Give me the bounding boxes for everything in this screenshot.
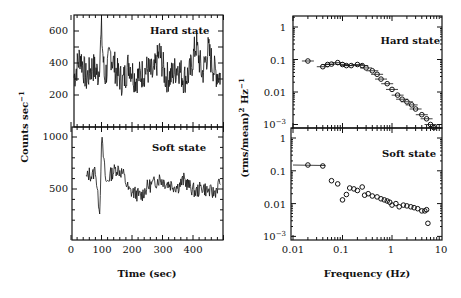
ytick-bottom-0.01: 0.01: [264, 199, 286, 210]
xtick-300: 300: [153, 244, 172, 255]
ytick-top-1e-3: 10−3: [263, 118, 286, 130]
right-y-axis-label: (rms/mean)2 Hz−1: [237, 78, 250, 178]
soft-state-power-spectrum: [293, 163, 430, 226]
left-plot: Hard state Soft state 600 400 200 1000 5…: [17, 15, 224, 279]
ytick-top-0.1: 0.1: [270, 55, 286, 66]
right-bottom-annotation: Soft state: [382, 148, 436, 159]
xtick-0.1: 0.1: [333, 244, 349, 255]
right-bottom-frame: [291, 128, 442, 240]
ytick-top-0.01: 0.01: [264, 87, 286, 98]
xtick-100: 100: [92, 244, 111, 255]
figure: Hard state Soft state 600 400 200 1000 5…: [0, 0, 461, 298]
right-plot: Hard state Soft state 1 0.1 0.01 10−3 1 …: [237, 16, 447, 279]
xtick-0.01: 0.01: [282, 244, 304, 255]
ytick-200: 200: [49, 89, 68, 100]
left-x-axis-label: Time (sec): [117, 268, 176, 279]
ytick-bottom-1e-3: 10−3: [263, 230, 286, 242]
right-x-axis-label: Frequency (Hz): [324, 268, 410, 279]
xtick-10: 10: [435, 244, 448, 255]
left-y-axis-label: Counts sec−1: [17, 91, 30, 163]
xtick-1: 1: [388, 244, 394, 255]
xtick-400: 400: [183, 244, 202, 255]
xtick-200: 200: [122, 244, 141, 255]
xtick-0: 0: [68, 244, 74, 255]
right-top-frame: [293, 16, 442, 128]
hard-state-power-spectrum: [302, 59, 440, 130]
right-top-annotation: Hard state: [381, 35, 440, 46]
left-bottom-annotation: Soft state: [152, 142, 206, 153]
ytick-top-1: 1: [280, 22, 286, 33]
ytick-bottom-0.1: 0.1: [270, 166, 286, 177]
ytick-1000: 1000: [43, 131, 68, 142]
ytick-400: 400: [49, 57, 68, 68]
ytick-600: 600: [49, 25, 68, 36]
left-top-annotation: Hard state: [150, 25, 209, 36]
ytick-500: 500: [49, 183, 68, 194]
ytick-bottom-1: 1: [280, 133, 286, 144]
